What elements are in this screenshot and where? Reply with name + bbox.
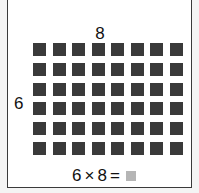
array-square [33, 43, 46, 56]
array-square [33, 102, 46, 115]
array-square [53, 102, 66, 115]
array-square [53, 83, 66, 96]
array-square [72, 83, 85, 96]
array-square [111, 142, 124, 155]
array-square [131, 102, 144, 115]
array-square [53, 122, 66, 135]
columns-count-label: 8 [95, 24, 104, 44]
array-square [53, 43, 66, 56]
rows-count-label: 6 [14, 94, 23, 114]
array-square [131, 63, 144, 76]
equals-sign: = [110, 166, 120, 186]
array-square [72, 142, 85, 155]
array-square [170, 142, 183, 155]
array-square [170, 63, 183, 76]
multiplication-equation: 6 × 8 = [72, 166, 136, 186]
answer-placeholder-box[interactable] [126, 171, 136, 181]
array-square [170, 122, 183, 135]
times-sign: × [84, 166, 94, 186]
array-square [150, 43, 163, 56]
array-square [170, 102, 183, 115]
array-square [150, 142, 163, 155]
array-square [111, 122, 124, 135]
array-square [72, 102, 85, 115]
array-square [150, 63, 163, 76]
array-square [92, 122, 105, 135]
array-square [150, 83, 163, 96]
array-square [53, 63, 66, 76]
array-square [72, 43, 85, 56]
array-square [150, 122, 163, 135]
array-square [131, 83, 144, 96]
array-square [111, 63, 124, 76]
equation-right-factor: 8 [97, 166, 106, 186]
array-square [72, 122, 85, 135]
array-square [170, 83, 183, 96]
array-square [131, 142, 144, 155]
array-square [33, 63, 46, 76]
array-square [33, 122, 46, 135]
array-square [53, 142, 66, 155]
square-array-grid [33, 43, 183, 155]
array-square [72, 63, 85, 76]
array-square [92, 43, 105, 56]
array-square [111, 43, 124, 56]
array-square [111, 102, 124, 115]
array-square [92, 142, 105, 155]
array-square [92, 102, 105, 115]
array-square [131, 122, 144, 135]
array-square [92, 63, 105, 76]
array-square [150, 102, 163, 115]
array-square [170, 43, 183, 56]
equation-left-factor: 6 [72, 166, 81, 186]
array-square [131, 43, 144, 56]
array-square [33, 142, 46, 155]
array-square [33, 83, 46, 96]
array-square [92, 83, 105, 96]
array-square [111, 83, 124, 96]
